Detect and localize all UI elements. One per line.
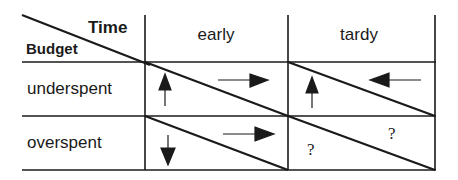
row-header-underspent: underspent — [27, 79, 112, 99]
column-header-early: early — [146, 25, 286, 45]
up-arrow-icon — [306, 77, 318, 108]
column-header-tardy: tardy — [289, 25, 429, 45]
left-arrow-icon — [370, 73, 421, 87]
unknown-marker: ? — [388, 124, 396, 144]
unknown-marker: ? — [307, 140, 315, 160]
right-arrow-icon — [218, 74, 268, 87]
row-axis-label: Budget — [26, 40, 78, 57]
right-arrow-icon — [223, 127, 274, 141]
up-arrow-icon — [159, 74, 171, 106]
down-arrow-icon — [161, 135, 175, 165]
row-header-overspent: overspent — [27, 133, 102, 153]
column-axis-label: Time — [88, 18, 127, 38]
